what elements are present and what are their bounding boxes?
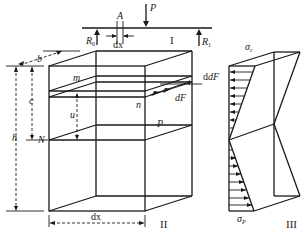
part-I-label: I: [170, 34, 174, 46]
right-reaction-label: R1: [201, 36, 211, 48]
neutral-point-N-label: N: [37, 134, 46, 145]
layer-distance-label: u: [70, 109, 75, 120]
dx-dimension-arrows-icon: [106, 34, 134, 38]
compressive-stress-arrows-icon: [230, 70, 253, 128]
front-face: [49, 66, 145, 211]
beam-part-I: P R0 R1 A dx I: [82, 2, 212, 50]
compressive-stress-label: σc: [245, 41, 253, 53]
tensile-stress-label: σP: [237, 213, 246, 225]
u-dimension-icon: [75, 93, 79, 140]
fiber-layer: [49, 76, 192, 97]
load-arrow-icon: [143, 4, 149, 27]
force-bottom-label: dF: [175, 92, 187, 103]
beam-bending-stress-diagram: P R0 R1 A dx I: [0, 0, 304, 232]
height-h-label: h: [12, 132, 17, 143]
depth-c-label: c: [29, 95, 34, 106]
part-II-label: II: [160, 218, 168, 230]
b-dimension-icon: [6, 51, 80, 66]
point-P-label: P: [156, 118, 163, 129]
point-n-label: n: [136, 99, 141, 110]
element-block-part-II: ddF dF m n P N u b h: [6, 51, 220, 230]
bottom-width-label: dx: [91, 211, 101, 222]
stress-distribution-part-III: σc σP III: [229, 41, 300, 230]
load-label: P: [149, 2, 156, 13]
neutral-layer: [49, 125, 192, 140]
force-top-label: ddF: [203, 71, 220, 82]
left-reaction-label: R0: [85, 35, 95, 47]
width-b-label: b: [37, 53, 42, 64]
element-width-label: dx: [113, 39, 123, 50]
part-III-label: III: [286, 218, 297, 230]
section-label: A: [116, 10, 124, 21]
tensile-stress-arrows-icon: [229, 150, 252, 207]
point-m-label: m: [73, 72, 80, 83]
